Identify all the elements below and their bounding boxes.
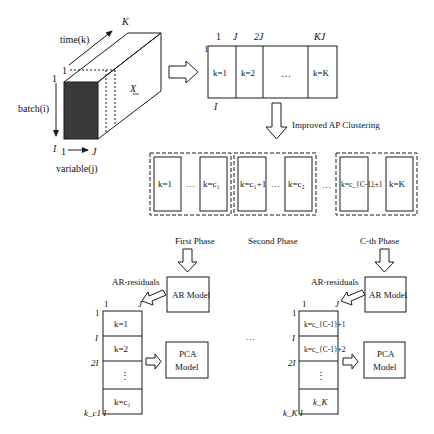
batch-axis-start: 1 [52,73,57,84]
cth-row-2I: 2I [288,358,297,368]
cth-row-1: 1 [292,308,297,318]
ar-residuals-arrow-icon-first [142,290,166,305]
first-row-1: 1 [95,308,100,318]
first-col-1: 1 [104,299,109,309]
ar-model-label-cth: AR Model [369,290,408,300]
pca-arrow-icon-cth [343,354,358,369]
cth-row-kKI: k_K I [283,408,304,418]
clustering-label: Improved AP Clustering [292,120,380,130]
cth-block-dots: ⋮ [316,370,326,381]
data-cube [64,33,161,139]
phase-cth-label: C-th Phase [360,236,399,246]
tensor-label: X [129,83,137,94]
unfolded-tick-J: J [233,31,238,42]
cluster-group-2: k=c₁+1 … k=c₂ [234,153,316,215]
unfolded-tick-2J: 2J [254,31,264,42]
time-axis-start: 1 [62,65,67,76]
unfolded-block-kK: k=K [313,68,330,78]
batch-axis-label: batch(i) [18,103,49,115]
first-block-1: k=1 [114,319,128,329]
variable-axis-end: J [92,146,97,157]
ar-residuals-arrow-icon-cth [341,290,365,305]
pca-model-box-cth [364,342,405,378]
cluster-1-block-a: k=1 [158,179,172,189]
first-block-2: k=2 [114,344,128,354]
time-axis-label: time(k) [60,34,89,46]
phase-first-label: First Phase [175,236,215,246]
ar-model-label-first: AR Model [172,290,211,300]
phase-between-dots: … [246,332,255,342]
variable-axis-start: 1 [61,146,66,157]
unfolded-tick-KJ: KJ [313,31,326,42]
phase-cth-block: AR Model AR-residuals 1 J k=c_{C-1}+1 k=… [283,249,408,418]
unfolded-block-k2: k=2 [241,68,255,78]
cluster-1-sep: … [186,179,195,189]
pca-label-line1-cth: PCA [377,349,395,359]
batch-axis-end: I [52,143,57,154]
unfolded-block-k1: k=1 [213,68,227,78]
unfolded-left-1: 1 [204,44,209,54]
unfolded-left-I: I [213,101,218,112]
first-row-2I: 2I [91,358,100,368]
first-row-kc1I: k_c1 I [84,408,107,418]
ar-residuals-label-cth: AR-residuals [311,277,359,287]
pca-label-line2-cth: Model [373,362,397,372]
cth-col-1: 1 [302,299,307,309]
first-row-I: I [94,333,99,343]
variable-axis-label: variable(j) [56,163,98,175]
diagram-svg: X time(k) 1 K batch(i) 1 I 1 J variable(… [0,0,434,434]
pca-arrow-icon-first [146,354,161,369]
cluster-3-block-b: k=K [389,179,406,189]
cth-row-I: I [291,333,296,343]
cth-block-kK: k_K [313,397,328,407]
cluster-group-1: k=1 … k=c₁ [150,153,231,215]
first-block-dots: ⋮ [120,370,130,381]
pca-model-box-first [166,342,208,378]
pca-label-line1-first: PCA [179,349,197,359]
ar-residuals-label-first: AR-residuals [112,277,160,287]
cube-front-face [64,82,98,139]
pca-label-line2-first: Model [175,362,199,372]
cth-col-J: J [335,299,340,309]
diagram-canvas: X time(k) 1 K batch(i) 1 I 1 J variable(… [0,0,434,434]
cth-block-2: k=c_{C-1}+2 [304,345,346,354]
unfolded-tick-1: 1 [216,31,221,42]
cth-block-1: k=c_{C-1}+1 [304,320,346,329]
phase-second-label: Second Phase [248,236,298,246]
unfold-arrow-icon [169,61,198,83]
cluster-group-3: k=c_{C-1}+1 … k=K [336,153,417,215]
first-block-c1: k=c₁ [114,397,131,407]
cluster-3-sep: … [370,179,379,189]
cluster-1-block-b: k=c₁ [203,179,220,189]
unfolded-block-dots: … [281,68,291,79]
time-axis-end: K [121,16,130,27]
phase-first-block: AR Model AR-residuals 1 J k=1 k=2 ⋮ k=c₁… [84,249,211,418]
phase-cth-down-arrow-icon [375,249,394,272]
phase-first-down-arrow-icon [178,249,197,272]
clustering-arrow-icon [266,103,287,139]
cluster-2-block-b: k=c₂ [288,179,305,189]
cluster-between-dots: … [322,180,331,190]
cluster-2-sep: … [271,179,280,189]
cluster-2-block-a: k=c₁+1 [240,179,266,189]
